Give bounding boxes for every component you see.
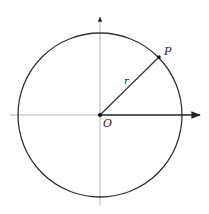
origin-label: O [103, 117, 112, 130]
radius-label: r [124, 75, 130, 86]
point-p [157, 55, 161, 59]
polar-diagram: P r O [0, 0, 209, 214]
point-p-label: P [163, 45, 172, 58]
origin-point [98, 113, 102, 117]
radius-segment [100, 57, 159, 115]
